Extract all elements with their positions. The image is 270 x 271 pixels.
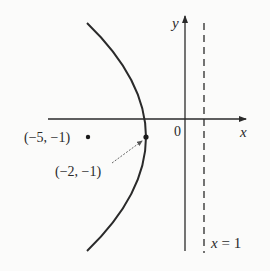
focus-point — [86, 135, 90, 139]
directrix-label: x = 1 — [210, 235, 241, 251]
origin-label: 0 — [174, 124, 181, 139]
vertex-point — [143, 134, 148, 139]
x-axis-label: x — [239, 124, 247, 140]
parabola-curve — [87, 23, 146, 251]
focus-label: (−5, −1) — [24, 130, 70, 146]
vertex-label: (−2, −1) — [55, 164, 101, 180]
parabola-diagram: y x 0 (−5, −1) (−2, −1) x = 1 — [0, 0, 270, 271]
vertex-leader-arrow — [112, 141, 142, 163]
y-axis-label: y — [170, 15, 179, 31]
